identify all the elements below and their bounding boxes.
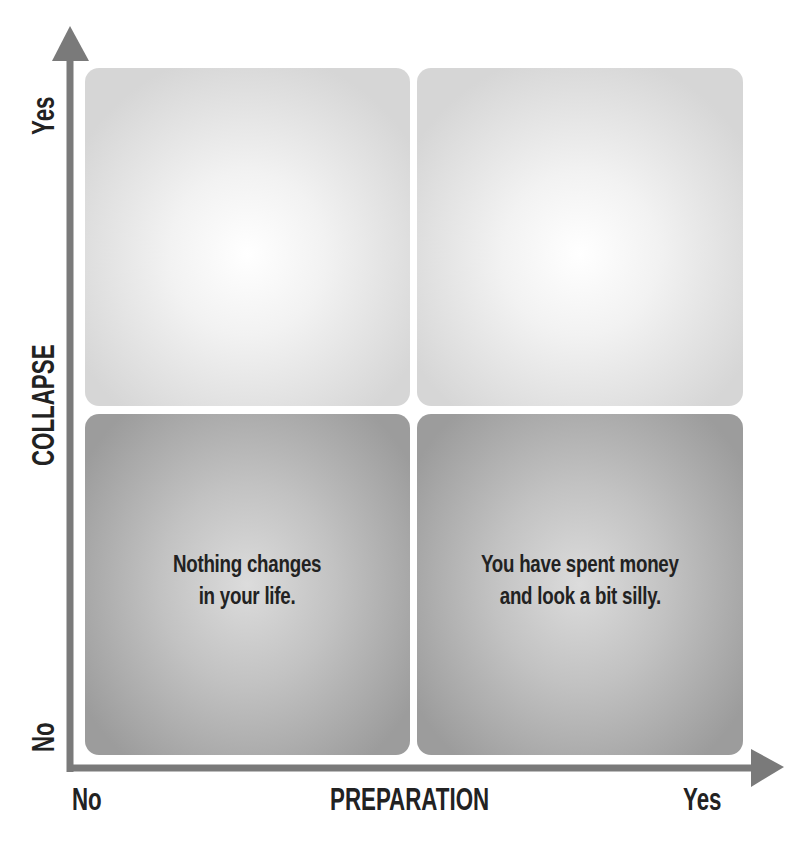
y-axis-low-label: No (26, 722, 62, 752)
x-axis-low-label-text: No (72, 782, 102, 818)
y-axis-arrowhead (52, 26, 89, 61)
x-axis-low-label: No (72, 782, 113, 818)
quadrant-text: You have spent money and look a bit sill… (417, 548, 743, 612)
quadrant-bottom-left: Nothing changes in your life. (85, 414, 410, 755)
x-axis-high-label-text: Yes (683, 782, 721, 818)
quadrant-text: Nothing changes in your life. (85, 548, 410, 612)
x-axis-high-label: Yes (683, 782, 736, 818)
x-axis-title-text: PREPARATION (330, 782, 489, 818)
x-axis-arrowhead (751, 749, 784, 787)
quadrant-text-line: and look a bit silly. (499, 580, 660, 612)
x-axis-title: PREPARATION (330, 782, 551, 818)
quadrant-text-line: You have spent money (481, 548, 679, 580)
quadrant-top-right (417, 68, 743, 406)
quadrant-text-line: in your life. (199, 580, 296, 612)
quadrant-top-left (85, 68, 410, 406)
y-axis-high-label: Yes (26, 97, 62, 135)
y-axis-title: COLLAPSE (26, 344, 62, 466)
quadrant-text-line: Nothing changes (173, 548, 321, 580)
quadrant-bottom-right: You have spent money and look a bit sill… (417, 414, 743, 755)
